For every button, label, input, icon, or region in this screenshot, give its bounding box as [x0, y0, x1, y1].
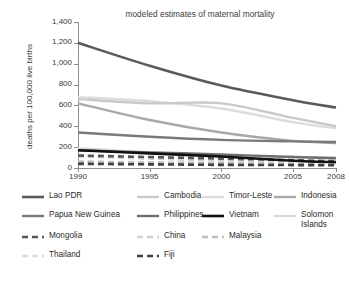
chart-title: modeled estimates of maternal mortality	[60, 9, 340, 19]
legend-line-swatch-icon	[137, 251, 159, 261]
legend-item-vietnam[interactable]: Vietnam	[202, 210, 259, 221]
x-tick-label: 1995	[141, 172, 159, 181]
series-line	[78, 43, 336, 108]
legend-label: Papua New Guinea	[49, 210, 120, 220]
legend-line-swatch-icon	[137, 211, 159, 221]
legend-label: Cambodia	[164, 191, 201, 201]
legend-line-swatch-icon	[202, 192, 224, 202]
legend-label: Timor-Leste	[229, 191, 272, 201]
legend-label: Solomon Islands	[301, 210, 333, 230]
y-tick-label: 1,400	[52, 17, 72, 26]
legend-label: Lao PDR	[49, 191, 82, 201]
legend-item-philippines[interactable]: Philippines	[137, 210, 204, 221]
series-line	[78, 164, 336, 165]
series-line	[78, 133, 336, 142]
legend-item-timor-leste[interactable]: Timor-Leste	[202, 191, 272, 202]
y-axis-title: deaths per 100,000 live births	[25, 22, 34, 172]
legend-row: Lao PDRCambodiaTimor-LesteIndonesia	[22, 191, 342, 210]
legend-label: China	[164, 231, 185, 241]
legend-line-swatch-icon	[274, 192, 296, 202]
y-tick-label: 600	[59, 100, 72, 109]
legend-label: Fiji	[164, 250, 174, 260]
x-axis-line	[78, 168, 336, 169]
legend-item-lao-pdr[interactable]: Lao PDR	[22, 191, 82, 202]
legend-item-thailand[interactable]: Thailand	[22, 250, 80, 261]
x-tick-label: 2000	[212, 172, 230, 181]
y-tick-label: 400	[59, 121, 72, 130]
legend-line-swatch-icon	[22, 251, 44, 261]
legend-item-mongolia[interactable]: Mongolia	[22, 231, 82, 242]
y-tick-label: 0	[68, 163, 72, 172]
legend-row: ThailandFiji	[22, 250, 342, 269]
y-tick-label: 200	[59, 142, 72, 151]
legend-row: Papua New GuineaPhilippinesVietnamSolomo…	[22, 210, 342, 231]
legend-line-swatch-icon	[202, 232, 224, 242]
legend-label: Indonesia	[301, 191, 337, 201]
data-lines	[78, 22, 336, 168]
legend-row: MongoliaChinaMalaysia	[22, 231, 342, 250]
legend-label: Philippines	[164, 210, 204, 220]
legend-label: Thailand	[49, 250, 80, 260]
chart-figure: modeled estimates of maternal mortality …	[0, 0, 349, 281]
x-tick-label: 2008	[327, 172, 345, 181]
legend-item-solomon-islands[interactable]: Solomon Islands	[274, 210, 333, 230]
y-tick-label: 800	[59, 79, 72, 88]
legend-item-malaysia[interactable]: Malaysia	[202, 231, 261, 242]
legend-line-swatch-icon	[274, 211, 296, 221]
legend-item-china[interactable]: China	[137, 231, 185, 242]
x-tick-label: 1990	[69, 172, 87, 181]
legend-label: Vietnam	[229, 210, 259, 220]
legend-line-swatch-icon	[22, 192, 44, 202]
legend-item-papua-new-guinea[interactable]: Papua New Guinea	[22, 210, 120, 221]
legend-item-cambodia[interactable]: Cambodia	[137, 191, 201, 202]
legend-item-indonesia[interactable]: Indonesia	[274, 191, 337, 202]
legend-line-swatch-icon	[137, 232, 159, 242]
x-tick-label: 2005	[284, 172, 302, 181]
legend-label: Mongolia	[49, 231, 82, 241]
legend-line-swatch-icon	[22, 211, 44, 221]
legend-line-swatch-icon	[22, 232, 44, 242]
y-tick-label: 1,200	[52, 37, 72, 46]
chart-legend: Lao PDRCambodiaTimor-LesteIndonesiaPapua…	[22, 191, 342, 269]
legend-line-swatch-icon	[202, 211, 224, 221]
legend-line-swatch-icon	[137, 192, 159, 202]
legend-item-fiji[interactable]: Fiji	[137, 250, 174, 261]
y-tick-label: 1,000	[52, 58, 72, 67]
plot-area: 02004006008001,0001,2001,400 19901995200…	[78, 22, 336, 168]
legend-label: Malaysia	[229, 231, 261, 241]
